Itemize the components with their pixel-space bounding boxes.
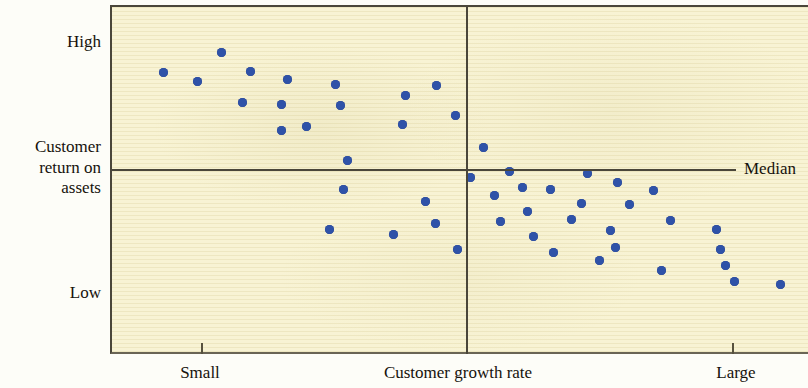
y-axis-title-line-2: return on: [0, 158, 101, 179]
data-point: [277, 126, 286, 135]
paper-texture: [112, 7, 808, 352]
data-point: [595, 256, 604, 265]
horizontal-median-line: [110, 169, 736, 171]
data-point: [577, 199, 586, 208]
data-point: [302, 122, 311, 131]
plot-area: [110, 5, 808, 354]
data-point: [246, 67, 255, 76]
data-point: [716, 245, 725, 254]
data-point: [567, 215, 576, 224]
data-point: [398, 120, 407, 129]
data-point: [389, 230, 398, 239]
data-point: [611, 243, 620, 252]
data-point: [325, 225, 334, 234]
y-axis-high-label: High: [0, 32, 101, 53]
data-point: [730, 277, 739, 286]
data-point: [625, 200, 634, 209]
data-point: [529, 232, 538, 241]
data-point: [401, 91, 410, 100]
data-point: [490, 191, 499, 200]
data-point: [159, 68, 168, 77]
data-point: [649, 186, 658, 195]
data-point: [421, 197, 430, 206]
data-point: [217, 48, 226, 57]
data-point: [657, 266, 666, 275]
x-axis-small-label: Small: [150, 363, 250, 384]
data-point: [518, 183, 527, 192]
x-tick-small: [201, 343, 203, 354]
y-axis-title: Customer return on assets: [0, 137, 101, 199]
data-point: [666, 216, 675, 225]
data-point: [546, 185, 555, 194]
median-line-label: Median: [744, 159, 796, 180]
data-point: [613, 178, 622, 187]
data-point: [479, 143, 488, 152]
data-point: [193, 77, 202, 86]
vertical-median-divider: [466, 7, 468, 354]
data-point: [283, 75, 292, 84]
scatter-plot-figure: High Customer return on assets Low Media…: [0, 0, 808, 388]
data-point: [331, 80, 340, 89]
paper-shading: [112, 7, 808, 352]
data-point: [431, 219, 440, 228]
data-point: [343, 156, 352, 165]
data-point: [339, 185, 348, 194]
x-axis-large-label: Large: [686, 363, 786, 384]
data-point: [496, 217, 505, 226]
data-point: [712, 225, 721, 234]
y-axis-title-line-3: assets: [0, 178, 101, 199]
data-point: [238, 98, 247, 107]
y-axis-low-label: Low: [0, 283, 101, 304]
x-tick-large: [732, 343, 734, 354]
data-point: [277, 100, 286, 109]
x-axis-title: Customer growth rate: [348, 363, 568, 384]
data-point: [606, 226, 615, 235]
data-point: [432, 81, 441, 90]
data-point: [453, 245, 462, 254]
data-point: [721, 261, 730, 270]
data-point: [549, 248, 558, 257]
data-point: [776, 280, 785, 289]
data-point: [336, 101, 345, 110]
data-point: [523, 207, 532, 216]
data-point: [451, 111, 460, 120]
y-axis-title-line-1: Customer: [0, 137, 101, 158]
